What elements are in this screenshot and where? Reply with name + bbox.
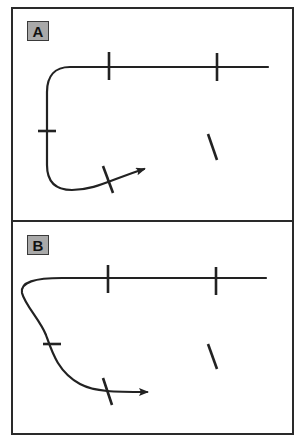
panel-b-path: [22, 278, 266, 392]
panel-a-tick-4: [103, 166, 113, 193]
panel-a-path: [47, 67, 268, 190]
panel-a-diagram: [38, 52, 268, 193]
diagram-figure: A B: [0, 0, 306, 446]
panel-a-slash-mark: [208, 134, 217, 160]
diagram-paths: [0, 0, 306, 446]
panel-b-diagram: [22, 265, 266, 405]
panel-b-slash-mark: [208, 344, 217, 369]
